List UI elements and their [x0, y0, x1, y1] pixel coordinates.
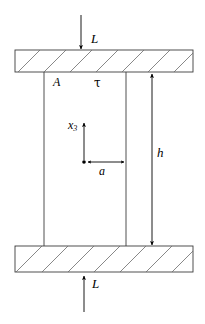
load-label-bottom: L — [92, 277, 99, 290]
height-label: h — [157, 146, 164, 159]
bottom-plate — [0, 246, 198, 272]
axis-label-x3-subscript: 3 — [73, 124, 77, 133]
shear-stress-label: τ — [94, 77, 101, 89]
offset-label: a — [99, 165, 105, 177]
top-plate — [0, 50, 196, 72]
figure-container: L A τ h a x3 L — [0, 0, 205, 324]
diagram-canvas — [0, 0, 205, 324]
axis-label-x3: x3 — [68, 119, 77, 131]
load-label-top: L — [91, 32, 98, 45]
area-label: A — [53, 76, 60, 88]
specimen-column — [44, 72, 126, 246]
